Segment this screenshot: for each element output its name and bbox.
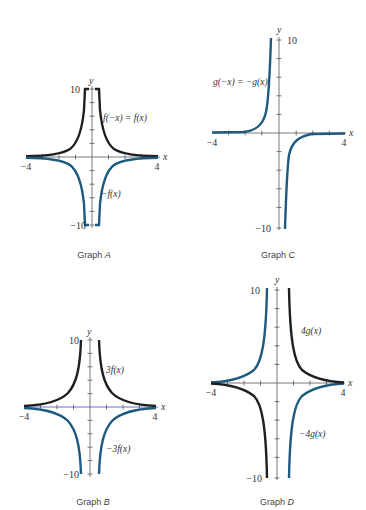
graph-c-label: g(−x) = −g(x) [213,77,268,88]
graph-b-label-neg-3fx: −3f(x) [106,444,130,455]
graph-a-xtick-4: 4 [155,161,160,172]
graph-b-xtick-4: 4 [153,411,158,422]
graph-d-xtick-4: 4 [341,387,346,398]
graph-d: 10 −10 −4 4 x y 4g(x) −4g(x) Graph D [206,274,353,507]
graph-a-label-neg-fx: −f(x) [101,189,121,200]
graph-b-ytick-10: 10 [69,335,79,346]
graph-a-label-fx: f(−x) = f(x) [103,113,147,124]
graph-c-ytick-neg10: −10 [255,223,271,234]
graph-d-caption: Graph D [260,497,295,507]
graph-b-axes [24,337,158,477]
graph-d-y-axis-label: y [274,274,280,285]
graph-a-xtick-neg4: −4 [21,161,32,172]
graph-d-label-neg-4gx: −4g(x) [299,429,325,440]
graph-d-axes [211,287,345,480]
graph-a-ytick-10: 10 [70,84,80,95]
graph-b-label-3fx: 3f(x) [105,365,124,376]
graph-b: 10 −10 −4 4 x y 3f(x) −3f(x) Graph B [19,326,166,507]
graph-d-x-axis-label: x [347,377,353,388]
figure-canvas: 10 −10 −4 4 x y f(−x) = f(x) −f(x) Graph… [0,0,366,510]
graph-a-x-axis-label: x [162,151,168,162]
graph-b-x-axis-label: x [160,401,166,412]
graph-a-y-axis-label: y [88,75,94,86]
graph-c-x-axis-label: x [348,127,354,138]
graph-d-ytick-neg10: −10 [246,473,262,484]
graph-c-curve [212,38,345,229]
graph-a-axes [26,86,160,228]
graph-c-caption: Graph C [261,250,296,260]
graph-a-ytick-neg10: −10 [70,220,86,231]
graph-c: 10 −10 −4 4 x y g(−x) = −g(x) Graph C [207,24,354,260]
graph-b-ytick-neg10: −10 [63,469,79,480]
graph-d-xtick-neg4: −4 [206,387,217,398]
graph-c-xtick-neg4: −4 [207,137,218,148]
graph-b-y-axis-label: y [86,326,92,337]
graph-d-label-4gx: 4g(x) [301,326,321,337]
graph-a: 10 −10 −4 4 x y f(−x) = f(x) −f(x) Graph… [21,75,168,260]
graph-c-xtick-4: 4 [342,137,347,148]
graph-d-ytick-10: 10 [250,285,260,296]
graph-b-xtick-neg4: −4 [19,411,30,422]
graph-a-caption: Graph A [77,250,111,260]
graph-b-caption: Graph B [76,497,110,507]
graph-c-y-axis-label: y [276,24,282,35]
graph-c-ytick-10: 10 [287,35,297,46]
